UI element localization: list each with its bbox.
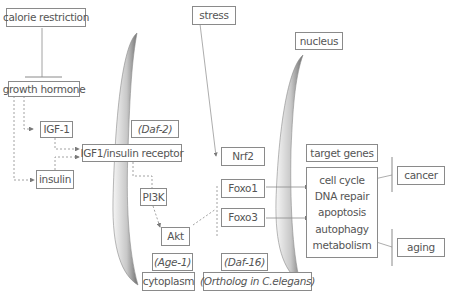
- label-nucleus: nucleus: [295, 32, 343, 50]
- node-insulin: insulin: [36, 170, 74, 189]
- label-cytoplasm: cytoplasm: [142, 272, 195, 291]
- node-foxo1: Foxo1: [221, 179, 265, 198]
- node-akt: Akt: [161, 227, 190, 246]
- target-genes-list: cell cycle DNA repair apoptosis autophag…: [306, 167, 378, 258]
- node-pi3k: PI3K: [140, 188, 167, 206]
- label-age1: (Age-1): [152, 253, 193, 271]
- gene-autophagy: autophagy: [315, 223, 369, 235]
- gene-dna-repair: DNA repair: [315, 190, 369, 202]
- gene-metabolism: metabolism: [313, 239, 372, 251]
- node-calorie-restriction: calorie restriction: [6, 8, 86, 27]
- gene-cell-cycle: cell cycle: [319, 174, 365, 186]
- nuclear-membrane: [276, 55, 303, 282]
- node-stress: stress: [192, 6, 236, 25]
- node-target-genes: target genes: [306, 144, 378, 162]
- node-growth-hormone: growth hormone: [8, 81, 80, 97]
- node-foxo3: Foxo3: [221, 208, 265, 227]
- label-daf16: (Daf-16): [221, 253, 268, 271]
- gene-apoptosis: apoptosis: [318, 206, 366, 218]
- node-igf1: IGF-1: [40, 121, 73, 138]
- node-nrf2: Nrf2: [221, 147, 265, 166]
- label-ortholog: (Ortholog in C.elegans): [203, 272, 312, 291]
- label-daf2: (Daf-2): [131, 120, 179, 138]
- node-igf1-insulin-receptor: IGF1/insulin receptor: [82, 144, 182, 162]
- node-cancer: cancer: [397, 166, 445, 185]
- node-aging: aging: [397, 238, 445, 257]
